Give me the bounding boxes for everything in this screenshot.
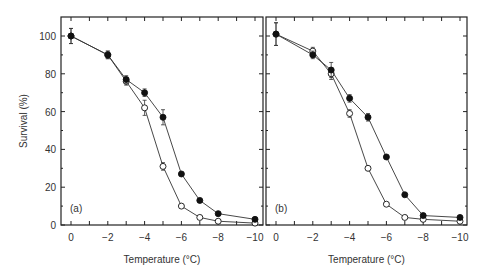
x-tick-label: −6 xyxy=(381,232,393,243)
x-tick-label: 0 xyxy=(68,232,74,243)
panel-a: 0−2−4−6−8−10020406080100Survival (%)(a)T… xyxy=(18,17,264,265)
y-tick-label: 100 xyxy=(39,31,56,42)
filled-circle-marker xyxy=(178,171,184,177)
panel-label: (b) xyxy=(275,203,287,214)
filled-circle-marker xyxy=(328,67,334,73)
series-filled xyxy=(273,23,463,221)
x-tick-label: −10 xyxy=(247,232,264,243)
filled-circle-marker xyxy=(160,114,166,120)
filled-circle-marker xyxy=(383,154,389,160)
filled-circle-marker xyxy=(347,95,353,101)
y-tick-label: 0 xyxy=(50,220,56,231)
filled-circle-marker xyxy=(457,214,463,220)
filled-circle-marker xyxy=(142,90,148,96)
y-tick-label: 40 xyxy=(45,144,57,155)
open-circle-marker xyxy=(365,165,371,171)
series-line xyxy=(276,34,460,221)
y-tick-label: 80 xyxy=(45,69,57,80)
open-circle-marker xyxy=(142,105,148,111)
filled-circle-marker xyxy=(310,52,316,58)
filled-circle-marker xyxy=(215,211,221,217)
series-line xyxy=(71,36,255,223)
x-tick-label: −2 xyxy=(102,232,114,243)
y-tick-label: 60 xyxy=(45,107,57,118)
filled-circle-marker xyxy=(420,213,426,219)
panel-b: 0−2−4−6−8−10(b)Temperature (°C) xyxy=(266,17,469,265)
series-open xyxy=(68,28,258,226)
open-circle-marker xyxy=(347,110,353,116)
x-tick-label: −10 xyxy=(452,232,469,243)
open-circle-marker xyxy=(178,203,184,209)
panel-label: (a) xyxy=(70,203,82,214)
filled-circle-marker xyxy=(197,197,203,203)
x-axis-label: Temperature (°C) xyxy=(124,254,201,265)
series-line xyxy=(276,34,460,217)
filled-circle-marker xyxy=(68,33,74,39)
open-circle-marker xyxy=(215,218,221,224)
filled-circle-marker xyxy=(105,52,111,58)
y-tick-label: 20 xyxy=(45,182,57,193)
x-tick-label: −6 xyxy=(176,232,188,243)
filled-circle-marker xyxy=(365,114,371,120)
x-axis-label: Temperature (°C) xyxy=(328,254,405,265)
series-filled xyxy=(68,28,258,222)
open-circle-marker xyxy=(197,214,203,220)
x-tick-label: 0 xyxy=(273,232,279,243)
x-tick-label: −8 xyxy=(212,232,224,243)
y-axis-label: Survival (%) xyxy=(18,94,29,148)
x-tick-label: −2 xyxy=(307,232,319,243)
x-tick-label: −4 xyxy=(139,232,151,243)
open-circle-marker xyxy=(160,163,166,169)
filled-circle-marker xyxy=(252,216,258,222)
filled-circle-marker xyxy=(123,76,129,82)
plot-frame xyxy=(61,17,263,225)
filled-circle-marker xyxy=(402,192,408,198)
series-line xyxy=(71,36,255,219)
x-tick-label: −8 xyxy=(417,232,429,243)
open-circle-marker xyxy=(402,214,408,220)
x-tick-label: −4 xyxy=(344,232,356,243)
filled-circle-marker xyxy=(273,31,279,37)
open-circle-marker xyxy=(383,201,389,207)
chart: 0−2−4−6−8−10020406080100Survival (%)(a)T… xyxy=(0,0,486,270)
series-open xyxy=(273,23,463,224)
